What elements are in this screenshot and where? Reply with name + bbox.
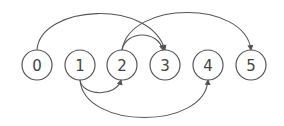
edge-1-to-2 bbox=[80, 80, 121, 93]
node-5: 5 bbox=[236, 50, 266, 80]
edge-0-to-3 bbox=[37, 14, 165, 50]
node-1: 1 bbox=[65, 50, 95, 80]
edge-1-to-4 bbox=[80, 80, 208, 118]
node-label: 3 bbox=[160, 57, 170, 75]
edge-2-to-5 bbox=[122, 13, 251, 51]
node-3: 3 bbox=[150, 50, 180, 80]
node-2: 2 bbox=[107, 50, 137, 80]
node-label: 5 bbox=[246, 57, 256, 75]
node-4: 4 bbox=[193, 50, 223, 80]
node-label: 0 bbox=[32, 57, 42, 75]
node-label: 1 bbox=[75, 57, 85, 75]
node-label: 2 bbox=[117, 57, 127, 75]
edge-2-to-3 bbox=[122, 35, 163, 50]
node-0: 0 bbox=[22, 50, 52, 80]
graph-diagram: 0 1 2 3 4 5 bbox=[0, 0, 284, 126]
node-label: 4 bbox=[203, 57, 213, 75]
